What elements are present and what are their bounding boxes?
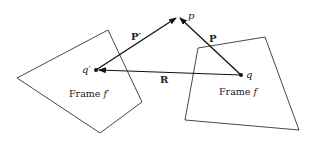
origin-q-dot <box>239 73 243 77</box>
frame-f-prime-var: f′ <box>102 88 110 99</box>
frame-f-prime-label: Frame f′ <box>69 88 110 99</box>
frame-f-label: Frame f <box>219 86 258 97</box>
origin-q-prime-label: q′ <box>82 64 91 75</box>
origin-q-prime-dot <box>94 68 98 72</box>
vector-r-label: R <box>160 74 169 85</box>
point-p-label: p <box>188 10 195 21</box>
frame-f-text: Frame <box>219 86 253 97</box>
frame-f-prime-polygon <box>17 30 142 133</box>
frames-diagram: p q q′ P′ P R Frame f′ Frame f <box>0 0 313 141</box>
frame-f-var: f <box>252 86 258 97</box>
vector-p <box>180 18 241 75</box>
vector-p-prime-label: P′ <box>131 31 142 42</box>
origin-q-label: q <box>246 69 252 80</box>
vector-r <box>99 70 241 75</box>
vector-p-label: P <box>209 33 217 44</box>
frame-f-polygon <box>185 37 299 130</box>
vector-p-prime <box>96 18 176 70</box>
diagram-canvas: p q q′ P′ P R Frame f′ Frame f <box>0 0 313 141</box>
frame-f-prime-text: Frame <box>69 88 103 99</box>
